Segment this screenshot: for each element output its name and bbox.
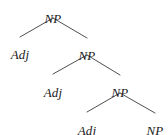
tree-node-adj3: Adj [78,124,97,135]
tree-node-adj1: Adj [11,48,30,61]
tree-node-np4: NP [146,124,163,135]
tree-node-np1: NP [44,12,61,25]
syntax-tree-figure: NPAdjNPAdjNPAdjNP [0,0,168,135]
tree-edges-layer [0,0,168,135]
tree-node-adj2: Adj [44,86,63,99]
tree-edge-group [20,18,155,113]
tree-node-np2: NP [78,49,95,62]
tree-node-np3: NP [111,86,128,99]
